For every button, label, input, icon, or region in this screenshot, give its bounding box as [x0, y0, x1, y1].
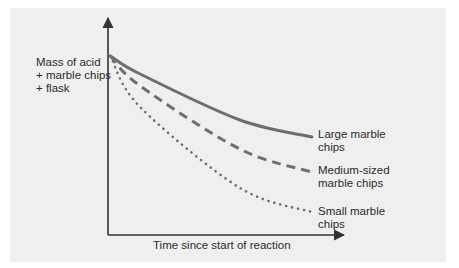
- y-axis-label-line-2: + marble chips: [36, 69, 111, 82]
- line-chart: [0, 0, 459, 268]
- legend-large-chips: Large marble chips: [318, 128, 386, 154]
- y-axis-label: Mass of acid + marble chips + flask: [36, 56, 111, 95]
- legend-medium-chips: Medium-sized marble chips: [318, 164, 390, 190]
- y-axis-label-line-3: + flask: [36, 82, 111, 95]
- legend-medium-line-2: marble chips: [318, 177, 390, 190]
- legend-large-line-2: chips: [318, 141, 386, 154]
- legend-small-chips: Small marble chips: [318, 205, 385, 231]
- legend-large-line-1: Large marble: [318, 128, 386, 141]
- legend-small-line-2: chips: [318, 218, 385, 231]
- legend-small-line-1: Small marble: [318, 205, 385, 218]
- y-axis-label-line-1: Mass of acid: [36, 56, 111, 69]
- legend-medium-line-1: Medium-sized: [318, 164, 390, 177]
- large-chips-curve: [110, 56, 312, 137]
- x-axis-label: Time since start of reaction: [153, 239, 291, 252]
